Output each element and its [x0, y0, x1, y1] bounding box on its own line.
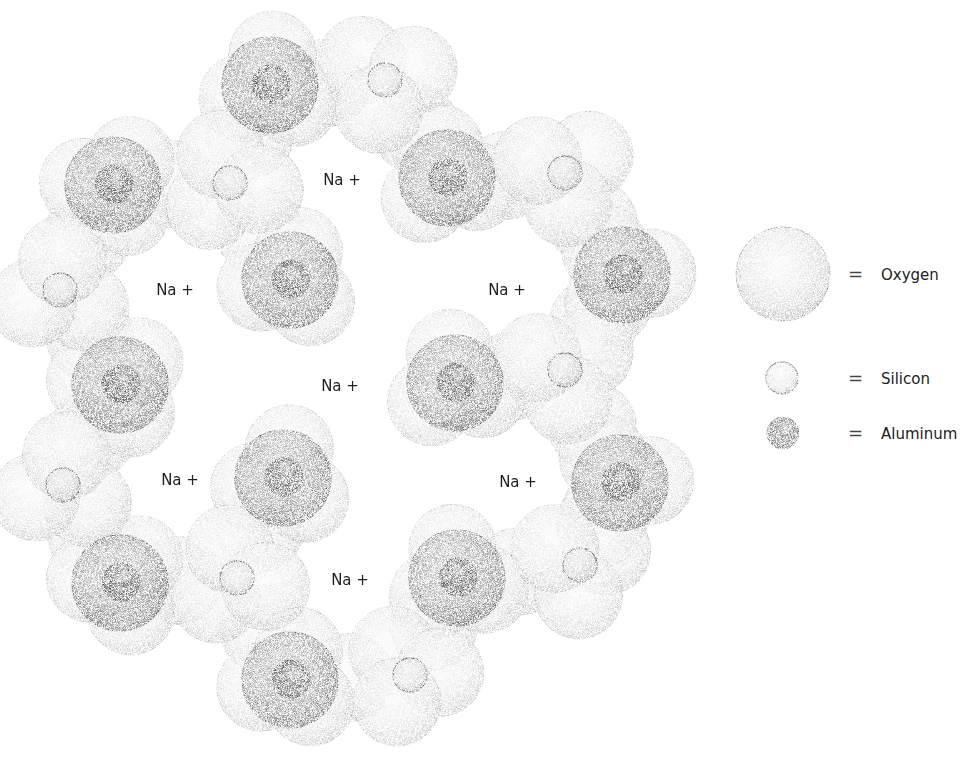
sodium-ion-label: Na + — [156, 281, 194, 299]
legend-item-oxygen: = Oxygen — [736, 227, 939, 321]
legend-label-silicon: Silicon — [881, 370, 930, 388]
aluminum-atom — [72, 535, 168, 631]
legend-label-aluminum: Aluminum — [881, 425, 957, 443]
sodium-ion-label: Na + — [161, 471, 199, 489]
silicon-atom — [563, 548, 597, 582]
sodium-ion-label: Na + — [321, 377, 359, 395]
aluminum-atom — [242, 232, 338, 328]
silicon-atom — [548, 156, 582, 190]
silicon-atom — [393, 658, 427, 692]
oxygen-legend-icon — [736, 227, 830, 321]
silicon-atom — [213, 166, 247, 200]
silicon-legend-icon — [766, 362, 798, 394]
aluminum-atom — [572, 435, 668, 531]
silicon-atom — [368, 63, 402, 97]
aluminum-atom — [72, 337, 168, 433]
legend-label-oxygen: Oxygen — [881, 266, 939, 284]
silicon-atom — [548, 353, 582, 387]
silicon-atom — [43, 273, 77, 307]
aluminum-atom — [242, 632, 338, 728]
aluminum-atom — [235, 430, 331, 526]
aluminum-atom — [222, 37, 318, 133]
silicon-atom — [220, 561, 254, 595]
aluminum-atom — [399, 130, 495, 226]
sodium-ion-label: Na + — [488, 281, 526, 299]
sodium-ion-label: Na + — [499, 473, 537, 491]
silicon-atom — [46, 468, 80, 502]
aluminum-atom — [65, 137, 161, 233]
equals-sign: = — [848, 422, 863, 443]
legend: = Oxygen = Silicon = Aluminum — [736, 227, 957, 449]
aluminum-atom — [409, 530, 505, 626]
sodium-ion-label: Na + — [331, 571, 369, 589]
equals-sign: = — [848, 367, 863, 388]
legend-item-silicon: = Silicon — [766, 362, 930, 394]
aluminum-atom — [574, 227, 670, 323]
aluminum-atom — [407, 335, 503, 431]
equals-sign: = — [848, 263, 863, 284]
zeolite-structure-diagram: Na +Na +Na +Na +Na +Na +Na + = Oxygen = … — [0, 0, 974, 759]
legend-item-aluminum: = Aluminum — [767, 417, 957, 449]
aluminum-legend-icon — [767, 417, 799, 449]
sodium-ion-label: Na + — [323, 171, 361, 189]
